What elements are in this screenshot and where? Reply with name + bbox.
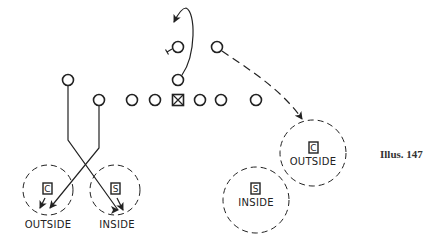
offense-formation <box>63 42 262 106</box>
center-x-icon <box>173 95 183 105</box>
player-end <box>251 95 262 106</box>
player-lineman <box>216 95 227 106</box>
c-arrow-left <box>40 198 45 208</box>
illustration-caption: Illus. 147 <box>380 148 423 160</box>
zone-label: INSIDE <box>99 219 135 230</box>
zone-labels: C OUTSIDE S INSIDE C OUTSIDE S INSIDE <box>25 142 337 230</box>
zone-letter: S <box>253 184 259 194</box>
player-split-end <box>63 75 74 86</box>
zones <box>23 120 346 233</box>
player-back-left <box>173 42 184 53</box>
player-lineman <box>127 95 138 106</box>
player-back-right <box>212 42 223 53</box>
zone-letter: C <box>310 143 316 153</box>
dashed-route-arrow <box>222 51 302 119</box>
diagram-canvas: C OUTSIDE S INSIDE C OUTSIDE S INSIDE <box>0 0 447 242</box>
routes <box>40 8 302 210</box>
player-lineman <box>195 95 206 106</box>
zone-label: OUTSIDE <box>290 156 337 167</box>
s-arrow-right <box>117 198 123 210</box>
play-diagram: C OUTSIDE S INSIDE C OUTSIDE S INSIDE Il… <box>0 0 447 242</box>
lineman-crossing-route <box>50 106 99 208</box>
zone-label: OUTSIDE <box>25 219 72 230</box>
player-quarterback <box>173 75 184 86</box>
zone-label: INSIDE <box>238 197 274 208</box>
block-tick-icon <box>166 49 173 55</box>
player-lineman <box>150 95 161 106</box>
zone-letter: C <box>44 184 50 194</box>
zone-letter: S <box>113 184 119 194</box>
player-lineman <box>94 95 105 106</box>
